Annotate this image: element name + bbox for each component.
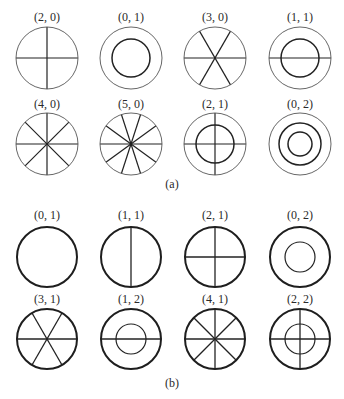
- mode-shape-panel-b-2: [185, 227, 245, 287]
- mode-shape-panel-b-6: [185, 309, 245, 369]
- mode-shape-panel-a-6: [184, 113, 246, 175]
- mode-label: (1, 1): [287, 10, 313, 25]
- mode-shape-panel-a-3: [269, 27, 331, 89]
- mode-shape-panel-a-1: [100, 27, 162, 89]
- mode-label: (4, 0): [34, 97, 60, 112]
- mode-label: (2, 0): [34, 10, 60, 25]
- plate-boundary: [100, 27, 162, 89]
- mode-label: (0, 2): [287, 97, 313, 112]
- nodal-circle: [112, 39, 150, 77]
- mode-label: (0, 1): [118, 10, 144, 25]
- mode-shape-panel-a-5: [100, 113, 162, 175]
- mode-label: (5, 0): [118, 97, 144, 112]
- plate-boundary: [17, 227, 77, 287]
- mode-shape-panel-b-1: [101, 227, 161, 287]
- mode-shape-panel-a-0: [16, 27, 78, 89]
- mode-shape-panel-b-7: [270, 309, 330, 369]
- mode-label: (0, 1): [34, 208, 60, 223]
- vibration-modes-figure: [0, 0, 344, 399]
- mode-shape-panel-b-5: [101, 309, 161, 369]
- plate-boundary: [270, 227, 330, 287]
- mode-label: (2, 2): [287, 292, 313, 307]
- mode-label: (4, 1): [202, 292, 228, 307]
- mode-label: (2, 1): [202, 208, 228, 223]
- mode-label: (3, 0): [202, 10, 228, 25]
- nodal-circle: [279, 123, 321, 165]
- mode-label: (0, 2): [287, 208, 313, 223]
- mode-shape-panel-b-3: [270, 227, 330, 287]
- mode-shape-panel-b-0: [17, 227, 77, 287]
- mode-label: (1, 2): [118, 292, 144, 307]
- nodal-circle: [285, 242, 315, 272]
- mode-shape-panel-b-4: [17, 309, 77, 369]
- mode-label: (2, 1): [202, 97, 228, 112]
- mode-shape-panel-a-7: [269, 113, 331, 175]
- mode-shape-panel-a-2: [184, 27, 246, 89]
- mode-label: (1, 1): [118, 208, 144, 223]
- caption-panel-a: (a): [165, 177, 178, 192]
- mode-label: (3, 1): [34, 292, 60, 307]
- nodal-circle: [288, 132, 312, 156]
- caption-panel-b: (b): [165, 376, 179, 391]
- mode-shape-panel-a-4: [16, 113, 78, 175]
